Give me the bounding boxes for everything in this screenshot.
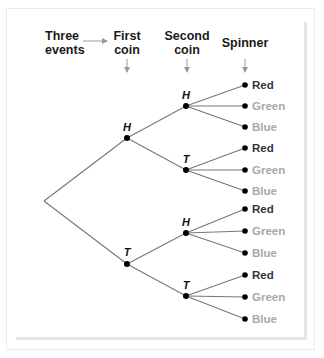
leaf-label-blue: Blue <box>252 185 277 197</box>
node-label: H <box>182 89 191 101</box>
node-first-h <box>124 135 130 141</box>
tree-diagram: Three events First coin Second coin Spin… <box>0 0 324 358</box>
header-three-events: Three events <box>45 29 85 57</box>
leaf-label-red: Red <box>252 79 274 91</box>
leaf-label-blue: Blue <box>252 247 277 259</box>
leaf-label-green: Green <box>252 291 285 303</box>
header-second-coin: Second coin <box>164 29 209 57</box>
node-label: T <box>124 246 132 258</box>
node-label: H <box>123 121 132 133</box>
leaf-label-red: Red <box>252 269 274 281</box>
leaf-label-blue: Blue <box>252 313 277 325</box>
node-first-t <box>124 261 130 267</box>
header-spinner: Spinner <box>222 36 269 50</box>
node-second-hh <box>183 103 189 109</box>
leaf-label-green: Green <box>252 100 285 112</box>
svg-text:Three: Three <box>45 29 79 43</box>
node-label: T <box>183 279 191 291</box>
svg-text:First: First <box>113 29 141 43</box>
header-first-coin: First coin <box>113 29 141 57</box>
leaf-label-red: Red <box>252 203 274 215</box>
leaf-label-green: Green <box>252 225 285 237</box>
node-label: T <box>183 153 191 165</box>
leaf-label-red: Red <box>252 142 274 154</box>
svg-text:Second: Second <box>164 29 209 43</box>
leaf-label-green: Green <box>252 164 285 176</box>
leaf-nodes <box>242 82 248 322</box>
node-second-th <box>183 230 189 236</box>
svg-text:coin: coin <box>114 43 140 57</box>
node-second-tt <box>183 293 189 299</box>
leaf-label-blue: Blue <box>252 121 277 133</box>
svg-text:coin: coin <box>174 43 200 57</box>
tree-branches <box>44 85 245 319</box>
node-second-ht <box>183 167 189 173</box>
node-label: H <box>182 216 191 228</box>
svg-text:events: events <box>45 43 85 57</box>
